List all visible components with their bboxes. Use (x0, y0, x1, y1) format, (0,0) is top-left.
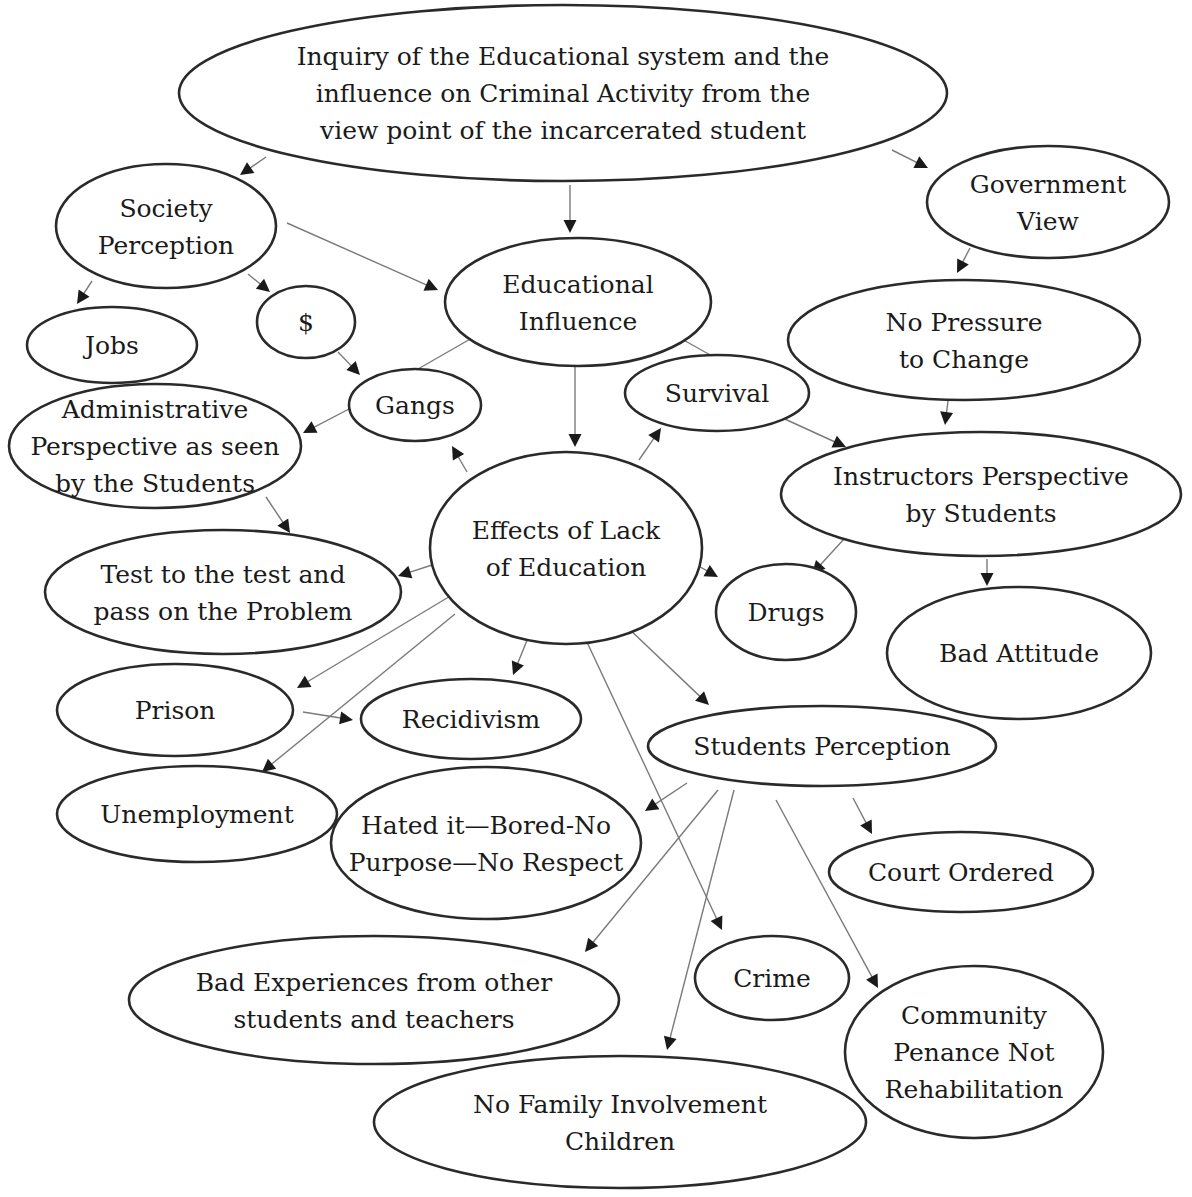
node-label-line: View (1016, 207, 1079, 236)
connector-line (310, 409, 349, 429)
edge-root-to-educational-influence (564, 185, 577, 233)
arrowhead-icon (585, 938, 598, 952)
edge-gangs-to-administrative (303, 409, 349, 433)
node-instructors: Instructors Perspectiveby Students (781, 432, 1181, 556)
edge-society-to-educational-influence (287, 223, 438, 291)
connector-line (287, 223, 431, 287)
node-label-line: Prison (135, 696, 216, 725)
node-educational-influence: EducationalInfluence (445, 238, 711, 366)
concept-map: Inquiry of the Educational system and th… (0, 0, 1192, 1197)
node-label-line: Crime (733, 964, 811, 993)
edge-root-to-society (240, 157, 266, 175)
edge-students-perception-to-hated (645, 783, 687, 811)
arrowhead-icon (297, 676, 311, 688)
node-label-line: view point of the incarcerated student (319, 116, 806, 145)
edge-effects-to-gangs (452, 446, 467, 472)
edge-effects-to-survival (639, 428, 661, 460)
node-prison: Prison (57, 664, 293, 756)
arrowhead-icon (645, 798, 659, 811)
node-label-line: Inquiry of the Educational system and th… (297, 42, 830, 71)
node-label-line: by the Students (55, 469, 255, 498)
node-bad-experiences: Bad Experiences from otherstudents and t… (129, 936, 619, 1064)
connector-line (651, 783, 687, 807)
node-label-line: Survival (665, 379, 769, 408)
node-label-line: by Students (905, 499, 1056, 528)
node-effects: Effects of Lackof Education (430, 452, 702, 644)
node-label-line: Community (901, 1001, 1048, 1030)
node-label-line: to Change (899, 345, 1029, 374)
edge-instructors-to-bad-attitude (981, 559, 994, 586)
nodes-layer: Inquiry of the Educational system and th… (9, 5, 1181, 1188)
node-ellipse (374, 1056, 866, 1188)
node-ellipse (788, 280, 1140, 400)
node-label-line: No Family Involvement (473, 1090, 767, 1119)
node-survival: Survival (625, 355, 809, 431)
edge-money-to-gangs (338, 352, 360, 375)
node-hated: Hated it—Bored-NoPurpose—No Respect (331, 767, 641, 919)
edge-effects-to-test (398, 565, 432, 578)
node-money: $ (257, 286, 355, 358)
arrowhead-icon (569, 434, 582, 447)
node-label-line: Administrative (61, 395, 249, 424)
node-ellipse (129, 936, 619, 1064)
arrowhead-icon (703, 565, 718, 577)
node-root: Inquiry of the Educational system and th… (179, 5, 947, 181)
node-administrative: AdministrativePerspective as seenby the … (9, 384, 301, 508)
node-ellipse (331, 767, 641, 919)
node-label-line: Drugs (748, 598, 825, 627)
node-society: SocietyPerception (56, 164, 276, 288)
arrowhead-icon (256, 279, 270, 292)
node-label-line: Influence (519, 307, 637, 336)
node-label-line: Penance Not (893, 1038, 1054, 1067)
node-ellipse (781, 432, 1181, 556)
node-label-line: students and teachers (233, 1005, 514, 1034)
node-label-line: Instructors Perspective (833, 462, 1129, 491)
arrowhead-icon (648, 428, 661, 442)
node-students-perception: Students Perception (648, 706, 996, 786)
node-label-line: Bad Attitude (939, 639, 1099, 668)
edge-no-pressure-to-instructors (940, 401, 953, 425)
connector-line (817, 539, 844, 568)
arrowhead-icon (277, 519, 290, 533)
node-label-line: Effects of Lack (472, 516, 661, 545)
node-crime: Crime (695, 936, 849, 1020)
node-label-line: Gangs (375, 391, 455, 420)
node-no-family: No Family InvolvementChildren (374, 1056, 866, 1188)
node-label-line: influence on Criminal Activity from the (316, 79, 811, 108)
node-label-line: pass on the Problem (94, 597, 353, 626)
connector-line (418, 338, 472, 369)
node-label-line: Jobs (82, 331, 139, 360)
node-ellipse (430, 452, 702, 644)
node-label-line: Test to the test and (101, 560, 346, 589)
node-bad-attitude: Bad Attitude (887, 587, 1151, 719)
arrowhead-icon (940, 411, 953, 425)
arrowhead-icon (564, 220, 577, 233)
edge-educational-influence-to-effects (569, 365, 582, 447)
node-no-pressure: No Pressureto Change (788, 280, 1140, 400)
edge-administrative-to-test (266, 497, 290, 533)
node-label-line: Children (565, 1127, 675, 1156)
node-label-line: Hated it—Bored-No (361, 811, 611, 840)
edge-root-to-government (892, 150, 928, 168)
node-community: CommunityPenance NotRehabilitation (845, 966, 1103, 1138)
node-label-line: Perception (98, 231, 234, 260)
node-test: Test to the test andpass on the Problem (45, 530, 401, 654)
node-label-line: Government (970, 170, 1127, 199)
node-label-line: of Education (486, 553, 647, 582)
node-ellipse (445, 238, 711, 366)
arrowhead-icon (339, 712, 353, 725)
connector-line (266, 497, 286, 527)
arrowhead-icon (77, 290, 90, 304)
node-court-ordered: Court Ordered (829, 832, 1093, 912)
arrowhead-icon (664, 1036, 677, 1050)
node-label-line: Recidivism (402, 705, 541, 734)
node-label-line: Court Ordered (868, 858, 1054, 887)
node-jobs: Jobs (27, 307, 197, 383)
connector-line (627, 627, 703, 700)
edge-effects-to-students-perception (627, 627, 709, 705)
node-recidivism: Recidivism (361, 679, 581, 759)
edge-government-to-no-pressure (957, 248, 970, 273)
edge-society-to-jobs (77, 281, 92, 304)
edge-students-perception-to-court-ordered (853, 798, 872, 834)
node-label-line: Purpose—No Respect (349, 848, 624, 877)
